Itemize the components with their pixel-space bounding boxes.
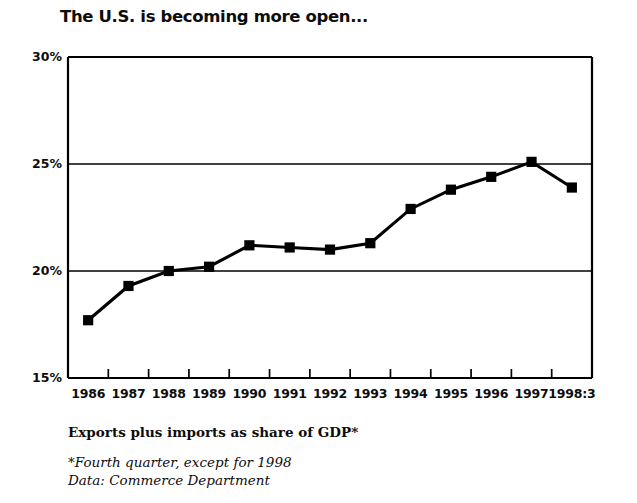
data-point-1997 — [526, 157, 536, 167]
y-tick-label-30: 30% — [0, 49, 62, 64]
x-tick-label-1993: 1993 — [353, 386, 387, 401]
data-point-1991 — [285, 242, 295, 252]
chart-figure: The U.S. is becoming more open... 30%25%… — [0, 0, 637, 503]
data-point-1993 — [365, 238, 375, 248]
y-tick-label-25: 25% — [0, 156, 62, 171]
x-tick-label-1994: 1994 — [394, 386, 428, 401]
data-point-1988 — [164, 266, 174, 276]
x-tick-label-1996: 1996 — [474, 386, 508, 401]
data-point-markers — [83, 157, 577, 326]
plot-svg — [68, 57, 592, 378]
data-point-1989 — [204, 262, 214, 272]
data-point-1995 — [446, 185, 456, 195]
data-line-series — [88, 162, 572, 320]
gridlines — [68, 57, 592, 378]
plot-area — [68, 57, 592, 378]
x-tick-label-1989: 1989 — [192, 386, 226, 401]
x-tick-label-1995: 1995 — [434, 386, 468, 401]
x-tick-label-1988: 1988 — [152, 386, 186, 401]
y-tick-label-20: 20% — [0, 263, 62, 278]
data-point-1994 — [406, 204, 416, 214]
x-tick-label-1991: 1991 — [273, 386, 307, 401]
x-tick-label-1992: 1992 — [313, 386, 347, 401]
x-tick-label-1986: 1986 — [71, 386, 105, 401]
data-point-1990 — [244, 240, 254, 250]
x-tick-label-1990: 1990 — [232, 386, 266, 401]
data-point-1986 — [83, 315, 93, 325]
x-tick-label-1998:3: 1998:3 — [548, 386, 595, 401]
data-point-1998:3 — [567, 182, 577, 192]
x-axis-ticks — [108, 369, 551, 378]
footnote-source: Data: Commerce Department — [68, 471, 608, 489]
x-axis-tick-labels: 1986198719881989199019911992199319941995… — [68, 386, 592, 408]
x-tick-label-1997: 1997 — [515, 386, 549, 401]
y-tick-label-15: 15% — [0, 370, 62, 385]
x-tick-label-1987: 1987 — [111, 386, 145, 401]
data-point-1992 — [325, 245, 335, 255]
axis-caption: Exports plus imports as share of GDP* — [68, 424, 608, 440]
data-point-1996 — [486, 172, 496, 182]
footnote-block: *Fourth quarter, except for 1998 Data: C… — [68, 453, 608, 489]
caption-block: Exports plus imports as share of GDP* *F… — [68, 424, 608, 489]
axis-frame — [68, 57, 592, 378]
data-point-1987 — [123, 281, 133, 291]
footnote-asterisk: *Fourth quarter, except for 1998 — [68, 453, 608, 471]
